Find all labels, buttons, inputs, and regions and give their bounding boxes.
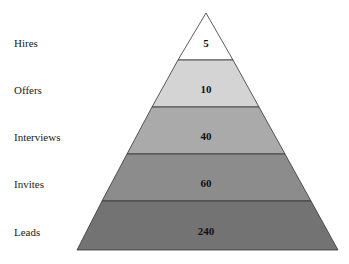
value-invites: 60 <box>201 177 213 189</box>
value-interviews: 40 <box>201 130 213 142</box>
value-hires: 5 <box>203 37 209 49</box>
value-leads: 240 <box>198 225 215 237</box>
value-offers: 10 <box>201 83 213 95</box>
funnel-pyramid: 5 10 40 60 240 <box>0 0 349 264</box>
